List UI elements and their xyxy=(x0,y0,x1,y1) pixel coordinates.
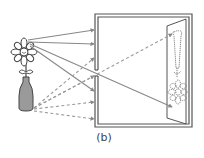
solid-light-rays xyxy=(28,30,172,107)
figure-caption: (b) xyxy=(90,131,118,144)
vase xyxy=(19,77,33,111)
flower-in-vase xyxy=(11,38,37,111)
